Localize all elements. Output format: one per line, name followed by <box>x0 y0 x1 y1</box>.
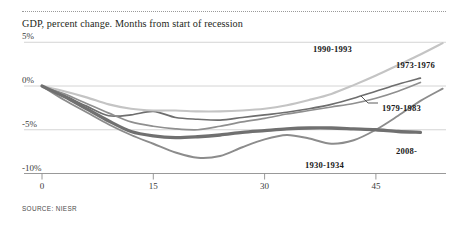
x-axis-ticks <box>42 174 376 180</box>
x-axis-label: 15 <box>149 181 158 191</box>
y-axis-label: 5% <box>22 31 34 41</box>
series-lines <box>42 43 443 158</box>
y-axis-label: 0% <box>22 75 34 85</box>
source-note: SOURCE: NIESR <box>22 205 77 212</box>
chart-container: GDP, percent change. Months from start o… <box>0 0 464 227</box>
series-line-1979-1983 <box>42 83 420 130</box>
y-axis-label: -10% <box>22 163 42 173</box>
series-label-1973-1976: 1973-1976 <box>396 60 435 70</box>
chart-plot-area <box>0 0 464 227</box>
series-label-1930-1934: 1930-1934 <box>305 160 344 170</box>
series-label-1990-1993: 1990-1993 <box>313 44 352 54</box>
x-axis-label: 0 <box>40 181 45 191</box>
series-label-1979-1983: 1979-1983 <box>382 103 421 113</box>
x-axis-label: 45 <box>371 181 380 191</box>
series-line-1990-1993 <box>42 43 443 111</box>
y-axis-label: -5% <box>22 119 37 129</box>
series-label-2008: 2008- <box>396 146 417 156</box>
x-axis-label: 30 <box>260 181 269 191</box>
